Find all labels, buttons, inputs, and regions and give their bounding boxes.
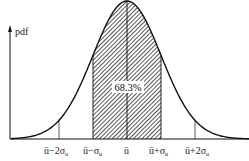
svg-text:ū−2σu: ū−2σu [44,145,68,157]
tick-label-mean-plus-sigma: ū+σu [149,145,168,157]
tick-label-mean: ū [124,145,129,156]
tick-label-mean-minus-sigma: ū−σu [83,145,102,157]
svg-text:ū+2σu: ū+2σu [185,145,209,157]
pdf-chart: pdf 68.3% ū−2σu ū−σu ū ū+σu ū+2σu [0,0,249,161]
svg-text:ū−σu: ū−σu [83,145,102,157]
percentage-label: 68.3% [114,82,141,93]
tick-label-mean-plus-two-sigma: ū+2σu [185,145,209,157]
svg-text:ū+σu: ū+σu [149,145,168,157]
y-axis-arrow-icon [8,25,12,32]
y-axis-label: pdf [15,26,29,37]
svg-text:ū: ū [124,145,129,156]
tick-label-mean-minus-two-sigma: ū−2σu [44,145,68,157]
